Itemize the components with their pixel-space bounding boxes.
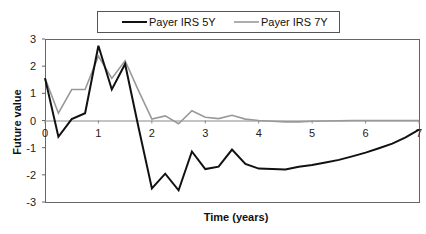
legend-label-5y: Payer IRS 5Y [149,16,216,28]
y-tick-label: -1 [26,142,36,154]
y-tick-label: 2 [30,60,36,72]
x-axis-title: Time (years) [204,211,269,223]
x-tick-label: 0 [42,127,48,139]
legend-label-7y: Payer IRS 7Y [261,16,328,28]
y-axis-ticks: 3210-1-2-3 [26,33,45,208]
x-tick-label: 1 [95,127,101,139]
x-tick-label: 5 [309,127,315,139]
x-tick-label: 3 [202,127,208,139]
line-chart: Payer IRS 5Y Payer IRS 7Y 3210-1-2-3 012… [0,0,426,234]
legend: Payer IRS 5Y Payer IRS 7Y [98,12,340,33]
y-tick-label: 3 [30,33,36,45]
y-tick-label: 0 [30,115,36,127]
y-axis-title: Future value [11,89,23,154]
x-tick-label: 2 [149,127,155,139]
x-tick-label: 4 [256,127,262,139]
x-tick-label: 6 [363,127,369,139]
y-tick-label: 1 [30,87,36,99]
y-tick-label: -2 [26,169,36,181]
y-tick-label: -3 [26,196,36,208]
x-tick-label: 7 [416,127,422,139]
